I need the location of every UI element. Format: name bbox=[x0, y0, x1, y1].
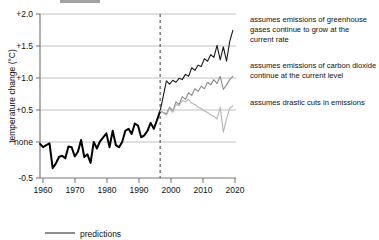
legend-label: predictions bbox=[80, 229, 121, 239]
y-tick-label: +1.5 bbox=[16, 41, 33, 51]
climate-prediction-chart: +2.0 +1.5 +1.0 +0.5 none -0.5 1960 1970 … bbox=[0, 0, 379, 240]
series-line bbox=[40, 111, 160, 168]
gridlines bbox=[40, 14, 236, 142]
x-tick-label: 1970 bbox=[66, 185, 85, 195]
series-group bbox=[40, 30, 233, 168]
y-axis-label: temperature change (°C) bbox=[7, 49, 17, 143]
x-tick-label: 1960 bbox=[34, 185, 53, 195]
x-tick-label: 2010 bbox=[194, 185, 213, 195]
x-tick-label: 1980 bbox=[98, 185, 117, 195]
y-tick-label: -0.5 bbox=[18, 173, 33, 183]
annotation-line: continue at the current level bbox=[250, 71, 344, 80]
annotation-high-emissions: assumes emissions of greenhouse gases co… bbox=[250, 15, 367, 44]
y-tick-label: +0.5 bbox=[16, 105, 33, 115]
x-tick-labels: 1960 1970 1980 1990 2000 2010 2020 bbox=[34, 185, 245, 195]
annotation-line: gases continue to grow at the bbox=[250, 25, 349, 34]
annotation-drastic-cuts: assumes drastic cuts in emissions bbox=[250, 98, 365, 107]
annotation-line: assumes emissions of carbon dioxide bbox=[250, 61, 376, 70]
x-tick-label: 2000 bbox=[162, 185, 181, 195]
x-tick-label: 2020 bbox=[226, 185, 245, 195]
series-line bbox=[160, 30, 233, 111]
x-tick-label: 1990 bbox=[130, 185, 149, 195]
axis-lines bbox=[40, 14, 236, 178]
annotation-line: current rate bbox=[250, 35, 289, 44]
annotation-line: assumes emissions of greenhouse bbox=[250, 15, 367, 24]
y-tick-label: +2.0 bbox=[16, 9, 33, 19]
chart-svg: +2.0 +1.5 +1.0 +0.5 none -0.5 1960 1970 … bbox=[0, 0, 379, 240]
clipped-title bbox=[60, 0, 100, 3]
series-line bbox=[160, 99, 233, 132]
legend: predictions bbox=[45, 229, 121, 239]
y-tick-label: +1.0 bbox=[16, 73, 33, 83]
annotation-line: assumes drastic cuts in emissions bbox=[250, 98, 365, 107]
x-tick-marks bbox=[43, 178, 235, 183]
annotation-constant-emissions: assumes emissions of carbon dioxide cont… bbox=[250, 61, 376, 80]
